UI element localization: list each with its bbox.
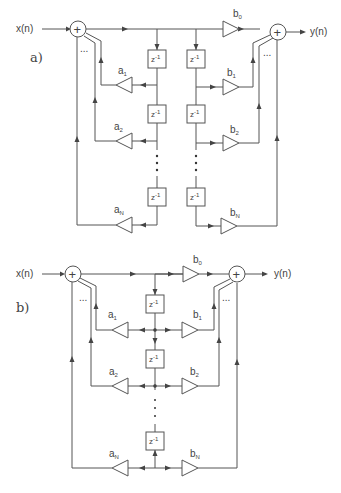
arrow-icon (165, 328, 171, 333)
arrow-icon (208, 224, 214, 229)
panel-b-amp-a2 (112, 378, 128, 394)
panel-b-amp-b1 (182, 322, 198, 338)
arrow-icon (210, 141, 216, 146)
coeff-b2: b2 (230, 124, 240, 136)
arrow-icon (168, 272, 174, 277)
panel-b-amp-aN (112, 460, 128, 476)
arrow-icon (139, 466, 145, 471)
panel-a-input-label: x(n) (16, 23, 33, 34)
coeff-b2: b2 (190, 366, 200, 378)
arrow-icon (153, 338, 158, 344)
panel-b-amp-a1 (112, 322, 128, 338)
plus-icon: + (74, 22, 82, 37)
coeff-bN: bN (190, 448, 200, 460)
coeff-a1: a1 (118, 65, 128, 77)
arrow-icon (99, 57, 104, 63)
arrow-icon (262, 272, 268, 277)
arrow-icon (194, 44, 199, 50)
panel-a-output-label: y(n) (310, 26, 327, 37)
arrow-icon (140, 83, 146, 88)
panel-b-amp-bN (182, 460, 198, 476)
arrow-icon (275, 135, 280, 141)
panel-b-input-label: x(n) (16, 268, 33, 279)
panel-a-amp-b2 (223, 135, 239, 151)
coeff-bN: bN (230, 207, 240, 219)
plus-icon: + (233, 267, 241, 282)
coeff-aN: aN (114, 204, 124, 216)
arrow-icon (93, 97, 98, 103)
arrow-icon (251, 57, 256, 63)
arrow-icon (153, 289, 158, 295)
coeff-b1: b1 (227, 67, 237, 79)
arrow-icon (235, 359, 240, 365)
arrow-icon (300, 30, 306, 35)
coeff-b0: b0 (233, 8, 243, 20)
arrow-icon (130, 272, 136, 277)
panel-a-amp-b1 (223, 79, 239, 95)
coeff-a2: a2 (114, 121, 124, 133)
iir-filter-structures-diagram: a) x(n) + z-1 z-1 z-1 a1 (0, 0, 341, 493)
arrow-icon (165, 466, 171, 471)
ellipsis: ... (222, 292, 230, 303)
panel-b-amp-b2 (182, 378, 198, 394)
arrow-icon (139, 384, 145, 389)
coeff-a1: a1 (108, 309, 118, 321)
coeff-b1: b1 (193, 309, 203, 321)
arrow-icon (155, 44, 160, 50)
arrow-icon (70, 356, 75, 362)
ellipsis: ... (263, 47, 271, 58)
plus-icon: + (274, 25, 282, 40)
panel-b-amp-b0 (183, 266, 199, 282)
ellipsis: ... (79, 292, 87, 303)
arrow-icon (122, 27, 128, 32)
coeff-aN: aN (109, 448, 119, 460)
plus-icon: + (69, 267, 77, 282)
panel-a: a) x(n) + z-1 z-1 z-1 a1 (16, 8, 327, 234)
arrow-icon (217, 337, 222, 343)
panel-b-output-label: y(n) (274, 268, 291, 279)
arrow-icon (89, 337, 94, 343)
coeff-a2: a2 (109, 366, 119, 378)
arrow-icon (210, 85, 216, 90)
arrow-icon (257, 103, 262, 109)
panel-a-tag: a) (30, 50, 43, 65)
coeff-b0: b0 (193, 254, 203, 266)
arrow-icon (207, 272, 213, 277)
panel-a-amp-a1 (116, 77, 132, 93)
panel-b-tag: b) (16, 300, 29, 315)
panel-b: b) x(n) + z-1 z-1 z-1 a1 (16, 254, 291, 476)
panel-a-amp-a2 (116, 133, 132, 149)
arrow-icon (140, 139, 146, 144)
arrow-icon (60, 272, 65, 277)
arrow-icon (139, 328, 145, 333)
ellipsis: ... (80, 43, 88, 54)
arrow-icon (165, 384, 171, 389)
panel-a-amp-bN (221, 218, 237, 234)
panel-a-amp-b0 (223, 21, 239, 37)
panel-a-amp-aN (116, 217, 132, 233)
arrow-icon (212, 303, 217, 309)
arrow-icon (75, 136, 80, 142)
arrow-icon (94, 303, 99, 309)
arrow-icon (153, 450, 158, 456)
arrow-icon (140, 223, 146, 228)
